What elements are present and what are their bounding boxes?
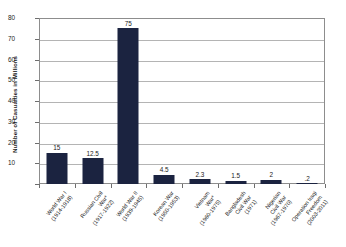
x-axis-tick-mark (218, 184, 219, 188)
y-axis-title: Number of Casualties in Millions (11, 30, 18, 180)
bar[interactable] (154, 175, 175, 184)
y-axis-tick-label: 50 (0, 77, 15, 84)
y-axis-tick-label: 70 (0, 35, 15, 42)
bar-value-label: 12.5 (86, 150, 98, 157)
x-axis-tick-mark (289, 184, 290, 188)
bar-value-label: 1.5 (231, 172, 240, 179)
bar-slot: 2 (254, 18, 290, 184)
x-axis-tick-mark (75, 184, 76, 188)
bar[interactable] (297, 183, 318, 184)
bar-slot: 15 (39, 18, 75, 184)
bar-slot: 4.5 (146, 18, 182, 184)
y-axis-tick-label: 30 (0, 118, 15, 125)
bar-chart: Number of Casualties in Millions 1020304… (0, 0, 346, 247)
y-axis-tick-label: 60 (0, 56, 15, 63)
x-axis-tick-mark (146, 184, 147, 188)
bars-layer: 1512.5754.52.31.52.2 (39, 18, 325, 184)
x-axis-tick-mark (325, 184, 326, 188)
y-axis-tick-label: 80 (0, 14, 15, 21)
bar-value-label: 4.5 (160, 166, 169, 173)
bar[interactable] (225, 181, 246, 184)
bar-value-label: 2.3 (195, 171, 204, 178)
bar-value-label: .2 (304, 175, 309, 182)
bar[interactable] (118, 28, 139, 184)
bar-slot: 2.3 (182, 18, 218, 184)
bar[interactable] (82, 158, 103, 184)
x-axis-tick-mark (182, 184, 183, 188)
bar[interactable] (46, 153, 67, 184)
bar-slot: 75 (111, 18, 147, 184)
y-axis-tick-label: 40 (0, 97, 15, 104)
bar-slot: 1.5 (218, 18, 254, 184)
bar-value-label: 75 (125, 20, 132, 27)
bar-value-label: 2 (270, 171, 274, 178)
bar[interactable] (261, 180, 282, 184)
x-axis-tick-mark (254, 184, 255, 188)
x-axis-tick-mark (39, 184, 40, 188)
bar-slot: 12.5 (75, 18, 111, 184)
bar-value-label: 15 (53, 144, 60, 151)
y-axis-tick-label: 10 (0, 160, 15, 167)
bar-slot: .2 (289, 18, 325, 184)
y-axis-tick-label: 20 (0, 139, 15, 146)
bar[interactable] (189, 179, 210, 184)
x-axis-tick-mark (111, 184, 112, 188)
